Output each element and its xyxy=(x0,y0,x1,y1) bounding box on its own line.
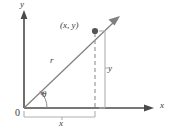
y-axis xyxy=(21,10,28,108)
polar-coordinate-diagram: y x 0 (x, y) r θ y x xyxy=(0,0,175,133)
plotted-point xyxy=(92,28,98,34)
vertical-leg-label: y xyxy=(108,64,112,73)
ray-arrowhead xyxy=(109,16,121,25)
x-axis-arrowhead xyxy=(144,104,154,111)
diagram-canvas xyxy=(0,0,175,133)
x-axis-label: x xyxy=(160,101,164,110)
horizontal-leg-label: x xyxy=(59,119,63,128)
origin-label: 0 xyxy=(15,108,20,118)
x-axis xyxy=(24,104,154,111)
vertical-brace xyxy=(99,31,108,108)
angle-theta-label: θ xyxy=(42,90,46,99)
point-coordinates-label: (x, y) xyxy=(60,21,78,30)
radius-label: r xyxy=(50,56,54,65)
y-axis-label: y xyxy=(20,0,24,9)
y-axis-arrowhead xyxy=(21,10,28,19)
